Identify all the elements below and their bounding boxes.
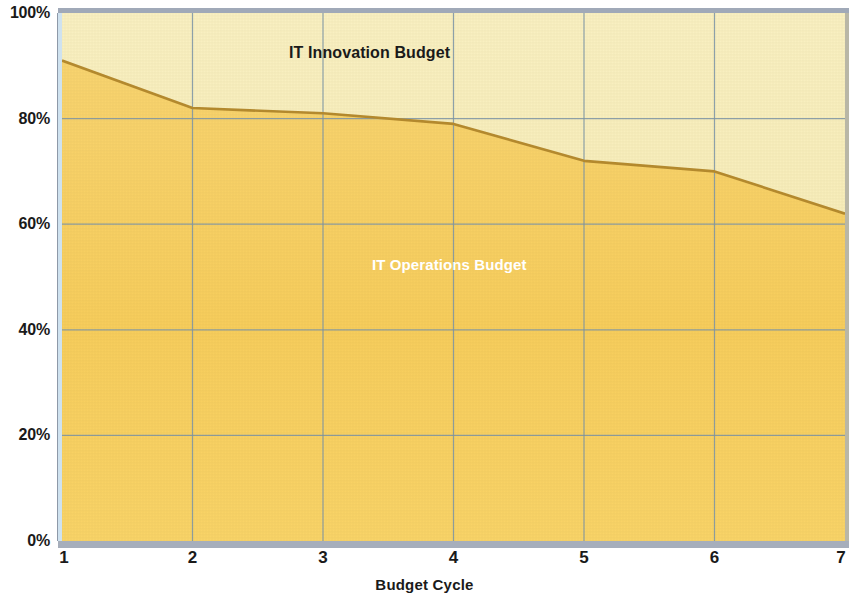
x-axis-tick-label: 1 <box>59 548 68 568</box>
x-axis-tick-label: 5 <box>579 548 588 568</box>
x-axis-tick-label: 3 <box>318 548 327 568</box>
x-axis-tick-label: 6 <box>710 548 719 568</box>
x-axis-tick-label: 7 <box>836 548 845 568</box>
x-axis-title: Budget Cycle <box>0 576 849 593</box>
y-axis-tick-label: 20% <box>19 426 50 444</box>
y-axis-tick-label: 40% <box>19 321 50 339</box>
stacked-area-chart: 100%80%60%40%20%0% IT Inn <box>0 0 849 600</box>
y-axis: 100%80%60%40%20%0% <box>0 0 56 600</box>
y-axis-tick-label: 100% <box>10 4 50 22</box>
y-axis-tick-label: 60% <box>19 215 50 233</box>
x-axis-tick-label: 4 <box>449 548 458 568</box>
y-axis-tick-label: 80% <box>19 110 50 128</box>
plot-frame-right <box>845 13 849 541</box>
x-axis: 1234567 <box>0 548 849 578</box>
plot-svg <box>62 13 845 541</box>
plot-area <box>62 13 845 541</box>
plot-frame-bottom <box>58 541 849 548</box>
x-axis-tick-label: 2 <box>188 548 197 568</box>
